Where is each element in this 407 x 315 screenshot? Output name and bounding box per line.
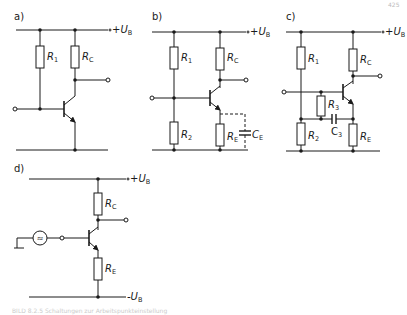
- panel-b-circuit: b) +UB R1 R2 RC: [150, 11, 270, 152]
- panel-d-label: d): [14, 163, 24, 174]
- output-terminal-d: [124, 218, 128, 222]
- resistor-rc-c: [349, 49, 357, 71]
- transistor-npn-a: [64, 96, 75, 122]
- input-terminal-b: [150, 96, 154, 100]
- figure-caption: BILD 8.2.5 Schaltungen zur Arbeitspunkte…: [12, 307, 167, 315]
- output-terminal-c: [378, 74, 382, 78]
- panel-d-circuit: d) +UB RC ≈: [14, 163, 150, 304]
- input-terminal-a: [13, 107, 17, 111]
- output-terminal-b: [244, 78, 248, 82]
- output-terminal-a: [106, 78, 110, 82]
- resistor-r1-a: [36, 46, 44, 68]
- resistor-re-c: [349, 124, 357, 146]
- panel-c-label: c): [286, 11, 295, 22]
- panel-a-label: a): [14, 11, 24, 22]
- supply-label-b: +UB: [250, 26, 270, 39]
- resistor-r1-b: [170, 47, 178, 69]
- transistor-npn-c: [343, 81, 353, 104]
- svg-text:≈: ≈: [37, 234, 44, 243]
- resistor-r2-b: [170, 122, 178, 144]
- resistor-re-b: [216, 124, 224, 146]
- r1-label-b: R1: [181, 52, 192, 65]
- resistor-r1-c: [297, 47, 305, 69]
- supply-label-d-pos: +UB: [130, 173, 150, 186]
- ground-icon: [14, 238, 24, 248]
- panel-a-circuit: a) +UB R1 RC: [13, 11, 132, 152]
- rc-label-d: RC: [105, 198, 117, 211]
- re-label-b: RE: [227, 131, 238, 144]
- r1-label-c: R1: [308, 53, 319, 66]
- capacitor-ce-b: [220, 114, 251, 150]
- ce-label-b: CE: [252, 129, 263, 142]
- resistor-rc-b: [216, 48, 224, 70]
- resistor-rc-a: [71, 46, 79, 68]
- transistor-npn-d: [89, 227, 98, 250]
- supply-label-a: +UB: [112, 24, 132, 37]
- r1-label-a: R1: [47, 51, 58, 64]
- input-terminal-d: [60, 236, 64, 240]
- rc-label-a: RC: [82, 51, 94, 64]
- r2-label-b: R2: [181, 129, 192, 142]
- page-number: 425: [388, 1, 400, 8]
- re-label-d: RE: [105, 263, 116, 276]
- resistor-r2-c: [297, 123, 305, 145]
- circuit-diagram-figure: 425 a) +UB R1 RC: [0, 0, 407, 315]
- resistor-re-d: [94, 258, 102, 280]
- r2-label-c: R2: [308, 130, 319, 143]
- r3-label-c: R3: [328, 99, 339, 112]
- transistor-npn-b: [210, 86, 220, 110]
- re-label-c: RE: [360, 131, 371, 144]
- panel-c-circuit: c) +UB R1 RC R3: [282, 11, 405, 153]
- capacitor-c3-c: [332, 114, 336, 124]
- resistor-rc-d: [94, 193, 102, 215]
- ac-source-icon: ≈: [33, 231, 47, 245]
- resistor-r3-c: [317, 96, 325, 116]
- c3-label-c: C3: [331, 126, 342, 139]
- rc-label-b: RC: [227, 52, 239, 65]
- supply-label-c: +UB: [385, 26, 405, 39]
- input-terminal-c: [282, 90, 286, 94]
- supply-label-d-neg: -UB: [127, 291, 142, 304]
- rc-label-c: RC: [360, 54, 372, 67]
- panel-b-label: b): [152, 11, 162, 22]
